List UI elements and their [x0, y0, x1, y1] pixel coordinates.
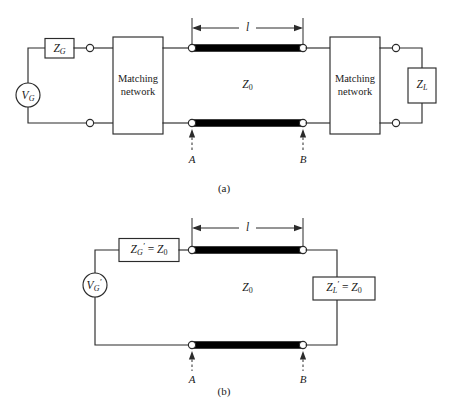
transmission-line-a: Z0 [163, 44, 330, 126]
panel-a-group: l ZG VG [16, 18, 436, 195]
matching-network-left-label-line2-a: network [121, 86, 156, 97]
matching-network-right-label-line2-a: network [338, 86, 373, 97]
generator-impedance-label-b: ZG′ = Z0 [131, 241, 168, 257]
characteristic-impedance-label-b: Z0 [242, 281, 252, 295]
reference-markers-b: A B [188, 351, 307, 385]
generator-branch-b: ZG′ = Z0 VG′ [83, 239, 189, 346]
load-impedance-label-b: ZL′ = Z0 [326, 279, 361, 295]
wire-tline-to-load-bottom-b [306, 300, 337, 345]
tline-terminal-top-left-a [188, 44, 195, 51]
characteristic-impedance-label-a: Z0 [242, 78, 252, 92]
wire-source-to-zg-b [95, 250, 119, 276]
dim-arrow-left-b [192, 225, 201, 231]
matching-network-right-label-line1-a: Matching [335, 73, 376, 84]
caption-panel-a: (a) [218, 182, 231, 195]
terminal-top-right-a [392, 44, 399, 51]
ref-arrow-a-marker [189, 129, 195, 138]
dim-arrow-left-a [192, 25, 201, 31]
figure-root: l ZG VG [0, 0, 450, 399]
wire-tline-to-load-top-b [306, 250, 337, 277]
tline-terminal-bottom-left-b [188, 341, 195, 348]
reference-plane-label-a: A [188, 153, 196, 165]
ref-arrow-a-marker-b [189, 351, 195, 360]
matching-network-right-a: Matching network [330, 37, 380, 134]
ref-arrow-b-marker [300, 129, 306, 138]
dim-arrow-right-a [294, 25, 303, 31]
wire-source-to-zg-a [28, 48, 45, 86]
reference-plane-label-a-b: A [188, 373, 196, 385]
matching-network-left-label-line1-a: Matching [118, 73, 159, 84]
ref-arrow-b-marker-b [300, 351, 306, 360]
wire-source-bottom-a [28, 104, 86, 123]
reference-plane-label-b-b: B [300, 373, 307, 385]
terminal-bottom-left-a [86, 119, 93, 126]
wire-terminal-to-load-top-a [400, 48, 422, 68]
caption-panel-b: (b) [218, 385, 231, 398]
load-branch-a: ZL [380, 44, 436, 126]
load-branch-b: ZL′ = Z0 [306, 250, 375, 345]
length-dimension-b: l [192, 218, 303, 250]
wire-source-bottom-b [95, 294, 189, 345]
wire-terminal-to-load-bottom-a [400, 103, 422, 123]
matching-network-left-a: Matching network [113, 37, 163, 134]
reference-plane-label-b: B [300, 153, 307, 165]
panel-b-group: l ZG′ = Z0 VG′ Z0 [83, 218, 375, 398]
tline-terminal-top-left-b [188, 246, 195, 253]
generator-branch-a: ZG VG [16, 39, 113, 127]
dim-arrow-right-b [294, 225, 303, 231]
transmission-line-b: Z0 [188, 246, 306, 348]
reference-markers-a: A B [188, 129, 307, 165]
terminal-bottom-right-a [392, 119, 399, 126]
circuit-diagram-svg: l ZG VG [0, 0, 450, 399]
length-label-a: l [246, 21, 249, 33]
tline-terminal-bottom-left-a [188, 119, 195, 126]
terminal-top-left-a [86, 44, 93, 51]
length-label-b: l [246, 221, 249, 233]
